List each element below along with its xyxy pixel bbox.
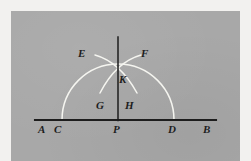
- point-label-h: H: [125, 100, 134, 111]
- point-label-b: B: [203, 124, 210, 135]
- point-label-a: A: [38, 124, 45, 135]
- figure-screenshot: A C P D B E F G H K: [0, 0, 251, 161]
- arc-from-c-through-k: [95, 55, 137, 93]
- point-label-c: C: [54, 124, 61, 135]
- point-label-p: P: [113, 124, 120, 135]
- point-label-d: D: [168, 124, 176, 135]
- point-label-f: F: [141, 48, 148, 59]
- point-label-k: K: [119, 74, 126, 85]
- point-label-g: G: [96, 100, 104, 111]
- point-label-e: E: [78, 48, 85, 59]
